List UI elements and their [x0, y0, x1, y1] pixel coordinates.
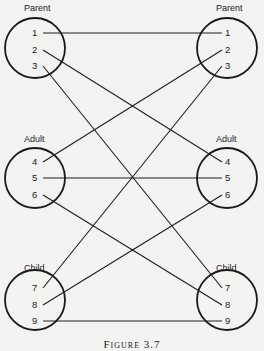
- right-parent-label: Parent: [216, 3, 243, 13]
- left-item-2: 2: [32, 44, 37, 55]
- left-adult-label: Adult: [24, 134, 45, 144]
- left-item-5: 5: [32, 172, 37, 183]
- left-item-3: 3: [32, 60, 37, 71]
- right-item-8: 8: [225, 299, 230, 310]
- right-item-3: 3: [225, 60, 230, 71]
- left-item-4: 4: [32, 156, 37, 167]
- left-child-label: Child: [24, 263, 45, 273]
- right-item-6: 6: [225, 189, 230, 200]
- right-item-9: 9: [225, 315, 230, 326]
- right-item-5: 5: [225, 172, 230, 183]
- right-child-label: Child: [216, 263, 237, 273]
- right-item-1: 1: [225, 27, 230, 38]
- right-item-2: 2: [225, 44, 230, 55]
- right-adult-label: Adult: [216, 134, 237, 144]
- figure-caption: Figure 3.7: [0, 338, 264, 350]
- connection-lines: [43, 33, 222, 321]
- left-item-9: 9: [32, 315, 37, 326]
- right-item-7: 7: [225, 282, 230, 293]
- left-item-1: 1: [32, 27, 37, 38]
- left-item-7: 7: [32, 282, 37, 293]
- left-item-8: 8: [32, 299, 37, 310]
- transaction-diagram: Parent Adult Child Parent Adult Child 1 …: [0, 0, 264, 351]
- right-item-4: 4: [225, 156, 230, 167]
- left-parent-label: Parent: [24, 3, 51, 13]
- left-item-6: 6: [32, 189, 37, 200]
